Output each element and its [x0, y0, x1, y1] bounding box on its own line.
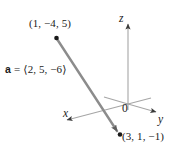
point-label-end: (3, 1, −1) — [122, 131, 164, 142]
vector-name: a — [5, 63, 11, 75]
z-axis-label: z — [119, 13, 123, 25]
point-marker-start — [54, 36, 59, 41]
vector-label: a=⟨2, 5, −6⟩ — [5, 64, 67, 75]
point-label-start: (1, −4, 5) — [29, 18, 71, 29]
vector-diagram-figure: (1, −4, 5) (3, 1, −1) a=⟨2, 5, −6⟩ z y x… — [0, 0, 173, 155]
vector-components: ⟨2, 5, −6⟩ — [23, 63, 66, 75]
vector-equals-sign: = — [14, 63, 20, 75]
y-axis-label: y — [158, 114, 163, 126]
x-axis-label: x — [63, 108, 68, 120]
origin-label: 0 — [122, 103, 128, 115]
